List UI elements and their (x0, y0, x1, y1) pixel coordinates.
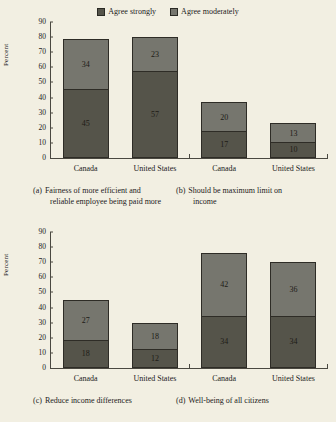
y-tick-0: 0 (24, 154, 46, 162)
y-axis-ticks-top: 90 80 70 60 50 40 30 20 10 0 (28, 22, 50, 158)
chart-page: Agree strongly Agree moderately Percent … (0, 0, 336, 422)
y-tick-60-bottom: 60 (24, 274, 46, 282)
legend-swatch-agree-moderately (170, 8, 178, 16)
chart-block-bottom: Percent 90 80 70 60 50 40 30 20 10 0 (0, 228, 336, 418)
bar-segment-moderate-d-canada: 42 (202, 254, 246, 316)
y-axis-title-top: Percent (2, 44, 10, 66)
y-tick-70: 70 (24, 48, 46, 56)
y-tick-90: 90 (24, 18, 46, 26)
x-category-a-united-states: United States (120, 164, 189, 173)
y-tick-40: 40 (24, 94, 46, 102)
x-category-b-united-states: United States (259, 164, 328, 173)
bar-segment-moderate-c-united-states: 18 (133, 324, 177, 350)
y-tick-50: 50 (24, 79, 46, 87)
y-tick-40-bottom: 40 (24, 304, 46, 312)
y-axis-ticks-bottom: 90 80 70 60 50 40 30 20 10 0 (28, 232, 50, 368)
y-tick-50-bottom: 50 (24, 289, 46, 297)
bars-top: 34 45 23 57 20 17 13 (51, 22, 328, 158)
chart-legend: Agree strongly Agree moderately (0, 7, 336, 16)
bar-slot-d-united-states: 36 34 (259, 232, 328, 368)
x-axis-categories-bottom: Canada United States Canada United State… (51, 374, 328, 383)
panel-caption-a-line1: Fairness of more efficient and (45, 186, 141, 197)
x-category-d-canada: Canada (190, 374, 259, 383)
bar-d-united-states[interactable]: 36 34 (270, 262, 316, 368)
bar-segment-moderate-b-canada: 20 (202, 103, 246, 132)
bar-segment-strong-a-united-states: 57 (133, 72, 177, 157)
y-tick-80-bottom: 80 (24, 243, 46, 251)
panel-caption-d-line1: Well-being of all citizens (188, 396, 268, 407)
bars-bottom: 27 18 18 12 42 34 36 (51, 232, 328, 368)
bar-segment-strong-a-canada: 45 (64, 90, 108, 157)
bar-slot-c-canada: 27 18 (51, 232, 120, 368)
bar-segment-moderate-d-united-states: 36 (271, 263, 315, 316)
x-category-c-canada: Canada (51, 374, 120, 383)
bar-segment-moderate-a-canada: 34 (64, 40, 108, 91)
bar-d-canada[interactable]: 42 34 (201, 253, 247, 368)
legend-swatch-agree-strongly (97, 8, 105, 16)
panel-caption-b-line1: Should be maximum limit on (188, 186, 282, 197)
y-tick-90-bottom: 90 (24, 228, 46, 236)
bar-c-canada[interactable]: 27 18 (63, 300, 109, 368)
y-tick-60: 60 (24, 64, 46, 72)
captions-bottom: (c) Reduce income differences (d) Well-b… (0, 396, 336, 407)
x-category-d-united-states: United States (259, 374, 328, 383)
bar-segment-moderate-b-united-states: 13 (271, 124, 315, 143)
bar-b-united-states[interactable]: 13 10 (270, 123, 316, 158)
bar-slot-c-united-states: 18 12 (120, 232, 189, 368)
bar-slot-a-canada: 34 45 (51, 22, 120, 158)
x-category-c-united-states: United States (120, 374, 189, 383)
captions-top: (a) Fairness of more efficient and relia… (0, 186, 336, 207)
panel-caption-b: (b) Should be maximum limit on income (168, 186, 336, 207)
y-tick-80: 80 (24, 33, 46, 41)
panel-caption-d: (d) Well-being of all citizens (168, 396, 336, 407)
bar-a-canada[interactable]: 34 45 (63, 39, 109, 158)
panel-caption-b-line2: income (176, 197, 336, 208)
panel-caption-c: (c) Reduce income differences (0, 396, 168, 407)
bar-segment-moderate-c-canada: 27 (64, 301, 108, 341)
x-axis-categories-top: Canada United States Canada United State… (51, 164, 328, 173)
y-axis-title-bottom: Percent (2, 254, 10, 276)
panel-tag-a: (a) (33, 186, 45, 197)
legend-label-agree-moderately: Agree moderately (181, 7, 239, 16)
y-tick-70-bottom: 70 (24, 258, 46, 266)
x-category-b-canada: Canada (190, 164, 259, 173)
panel-caption-a-line2: reliable employee being paid more (33, 197, 168, 208)
legend-label-agree-strongly: Agree strongly (108, 7, 156, 16)
bar-slot-d-canada: 42 34 (190, 232, 259, 368)
panel-caption-a: (a) Fairness of more efficient and relia… (0, 186, 168, 207)
bar-segment-strong-d-united-states: 34 (271, 317, 315, 367)
y-tick-10: 10 (24, 139, 46, 147)
x-category-a-canada: Canada (51, 164, 120, 173)
y-tick-30-bottom: 30 (24, 319, 46, 327)
y-tick-10-bottom: 10 (24, 349, 46, 357)
panel-tag-d: (d) (176, 396, 188, 407)
bar-segment-strong-c-united-states: 12 (133, 350, 177, 367)
bar-segment-moderate-a-united-states: 23 (133, 38, 177, 72)
legend-item-agree-strongly: Agree strongly (97, 7, 156, 16)
y-tick-20: 20 (24, 124, 46, 132)
legend-item-agree-moderately: Agree moderately (170, 7, 239, 16)
y-tick-0-bottom: 0 (24, 364, 46, 372)
bar-segment-strong-b-united-states: 10 (271, 143, 315, 157)
bar-a-united-states[interactable]: 23 57 (132, 37, 178, 158)
bar-b-canada[interactable]: 20 17 (201, 102, 247, 158)
bar-segment-strong-b-canada: 17 (202, 132, 246, 157)
bar-slot-b-canada: 20 17 (190, 22, 259, 158)
panel-caption-c-line1: Reduce income differences (45, 396, 132, 407)
y-tick-30: 30 (24, 109, 46, 117)
bar-slot-a-united-states: 23 57 (120, 22, 189, 158)
bar-segment-strong-c-canada: 18 (64, 341, 108, 367)
bar-slot-b-united-states: 13 10 (259, 22, 328, 158)
bar-c-united-states[interactable]: 18 12 (132, 323, 178, 368)
y-tick-20-bottom: 20 (24, 334, 46, 342)
panel-tag-c: (c) (33, 396, 45, 407)
bar-segment-strong-d-canada: 34 (202, 317, 246, 367)
chart-block-top: Percent 90 80 70 60 50 40 30 20 10 0 (0, 18, 336, 208)
panel-tag-b: (b) (176, 186, 188, 197)
